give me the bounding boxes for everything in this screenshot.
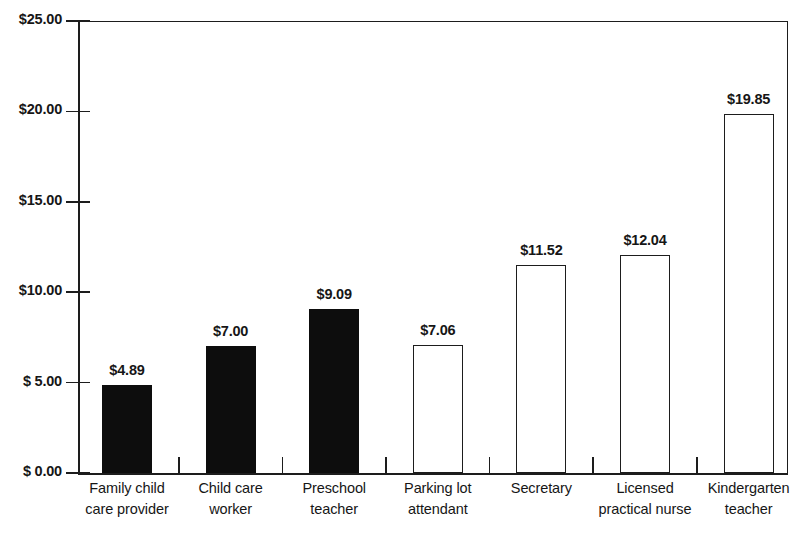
category-label-line: Kindergarten <box>691 478 797 499</box>
y-axis-line <box>78 21 80 474</box>
bar <box>724 114 774 473</box>
category-label-line: Preschool <box>276 478 392 499</box>
bar <box>309 309 359 473</box>
x-tick <box>592 457 594 474</box>
category-label-line: worker <box>173 499 289 520</box>
bar <box>413 345 463 473</box>
plot-right-border <box>787 21 788 474</box>
bar-value-label: $7.06 <box>388 322 488 338</box>
category-label-3: Preschoolteacher <box>276 478 392 520</box>
x-tick <box>489 457 491 474</box>
x-tick <box>178 457 180 474</box>
y-tick-5 <box>66 382 90 384</box>
x-axis-line <box>78 473 788 475</box>
y-tick-25 <box>66 20 90 22</box>
category-label-1: Family childcare provider <box>69 478 185 520</box>
bar-chart: $ 0.00$ 5.00$10.00$15.00$20.00$25.00 $4.… <box>0 0 797 533</box>
y-axis-label: $ 0.00 <box>0 463 62 479</box>
bar <box>102 385 152 473</box>
category-label-line: Parking lot <box>380 478 496 499</box>
y-axis-label: $ 5.00 <box>0 373 62 389</box>
category-label-line: Family child <box>69 478 185 499</box>
category-label-line: Child care <box>173 478 289 499</box>
category-label-line: Licensed <box>587 478 703 499</box>
plot-top-border <box>78 21 788 22</box>
category-label-line: care provider <box>69 499 185 520</box>
category-label-line: teacher <box>691 499 797 520</box>
bar-value-label: $9.09 <box>284 286 384 302</box>
y-axis-label: $10.00 <box>0 282 62 298</box>
x-tick <box>385 457 387 474</box>
bar-value-label: $19.85 <box>699 91 797 107</box>
y-axis-label: $20.00 <box>0 101 62 117</box>
bar-value-label: $11.52 <box>491 242 591 258</box>
category-label-5: Secretary <box>483 478 599 499</box>
y-tick-0 <box>66 472 90 474</box>
bar <box>206 346 256 473</box>
category-label-line: teacher <box>276 499 392 520</box>
category-label-6: Licensedpractical nurse <box>587 478 703 520</box>
y-tick-20 <box>66 111 90 113</box>
bar-value-label: $4.89 <box>77 362 177 378</box>
y-tick-15 <box>66 201 90 203</box>
category-label-4: Parking lotattendant <box>380 478 496 520</box>
category-label-7: Kindergartenteacher <box>691 478 797 520</box>
category-label-line: practical nurse <box>587 499 703 520</box>
y-tick-10 <box>66 291 90 293</box>
y-axis-label: $15.00 <box>0 192 62 208</box>
y-axis-label: $25.00 <box>0 11 62 27</box>
bar-value-label: $12.04 <box>595 232 695 248</box>
category-label-2: Child careworker <box>173 478 289 520</box>
x-tick <box>282 457 284 474</box>
category-label-line: attendant <box>380 499 496 520</box>
x-tick <box>696 457 698 474</box>
bar <box>620 255 670 473</box>
category-label-line: Secretary <box>483 478 599 499</box>
chart-title <box>78 0 778 3</box>
bar-value-label: $7.00 <box>181 323 281 339</box>
bar <box>516 265 566 473</box>
